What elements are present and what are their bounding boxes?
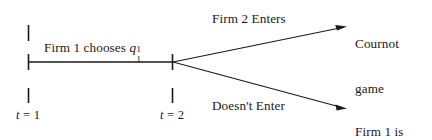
outcome-label-monopoly: Firm 1 is a monopoly [355,94,419,140]
branch-label-does-not-enter: Doesn't Enter [212,98,285,113]
outcome-cournot-line1: Cournot [355,36,399,51]
timeline-action-label: Firm 1 chooses q11 [44,40,144,55]
period-label-t2-eq: = [164,108,178,122]
action-label-prefix: Firm 1 chooses [44,40,129,55]
period-label-t1: t = 1 [16,108,40,122]
figure-canvas: Firm 1 chooses q11 t = 1 t = 2 Firm 2 En… [0,0,432,140]
period-label-t1-value: 1 [34,108,41,122]
branch-label-firm2-enters: Firm 2 Enters [212,11,286,26]
outcome-monopoly-line1: Firm 1 is [355,124,419,139]
action-label-subscript: 1 [136,55,140,65]
arrowhead-does-not-enter [335,105,347,111]
action-label-variable: q [129,40,136,55]
period-label-t2-value: 2 [178,108,185,122]
arrowhead-enter [335,25,347,31]
branch-arrow-enter [173,28,341,62]
period-label-t1-eq: = [20,108,34,122]
period-label-t2: t = 2 [160,108,184,122]
